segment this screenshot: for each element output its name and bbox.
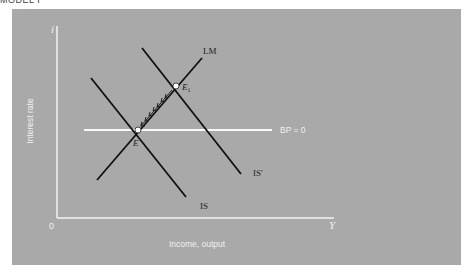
- is-lm-bp-diagram: i Interest rate Y Income, output 0 BP = …: [0, 0, 471, 278]
- point-e-label: E: [132, 138, 139, 148]
- point-e: [135, 127, 141, 133]
- point-e1: [173, 83, 179, 89]
- lm-label: LM: [203, 46, 217, 56]
- axes: [57, 26, 334, 218]
- lm-curve: [97, 58, 202, 180]
- is-shifted-label: IS': [253, 168, 263, 178]
- is-curve: [91, 78, 186, 197]
- y-axis-symbol: i: [51, 23, 54, 35]
- x-axis-symbol: Y: [329, 219, 337, 231]
- origin-label: 0: [49, 221, 54, 231]
- is-label: IS: [200, 201, 208, 211]
- adjustment-path-arrow: [141, 90, 172, 126]
- point-e1-label: E1: [181, 82, 191, 93]
- x-axis-label: Income, output: [169, 239, 226, 249]
- bp-label: BP = 0: [280, 125, 306, 135]
- y-axis-label: Interest rate: [25, 98, 35, 144]
